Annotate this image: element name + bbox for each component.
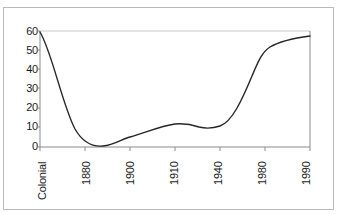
chart-figure: 60 50 40 30 20 10 0 Colonial 1880 1900 1…: [0, 0, 338, 215]
plot-canvas: [0, 0, 338, 215]
xtick-marks: [40, 147, 310, 151]
data-series-line: [40, 32, 310, 146]
